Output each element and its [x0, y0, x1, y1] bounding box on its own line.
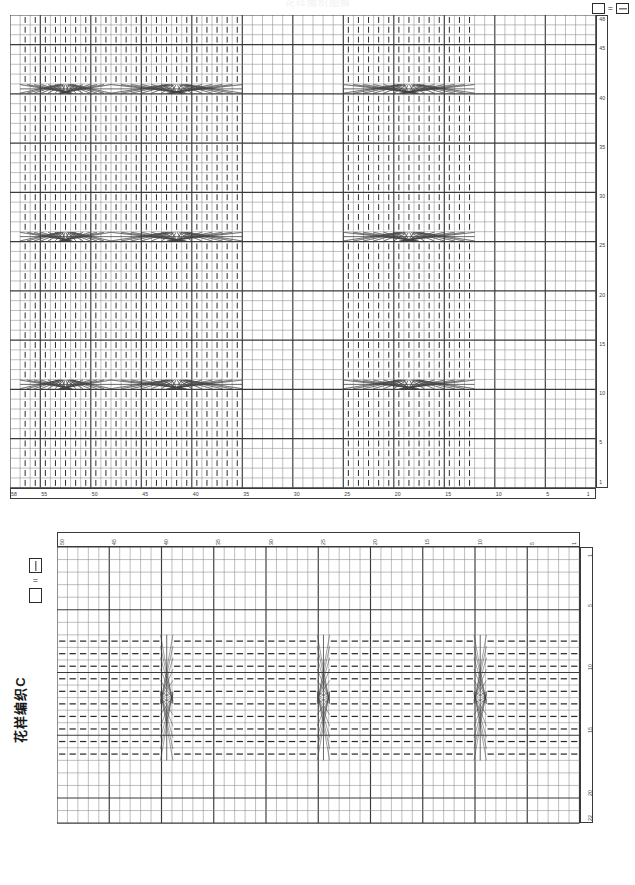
chart-b-caption: 花样编织C: [10, 665, 29, 755]
chart-b-row-tick: 1: [588, 554, 593, 557]
chart-b-right-label-strip: [580, 547, 593, 823]
cable-crossing: [343, 380, 474, 389]
chart-a-grid: [10, 15, 597, 489]
chart-b-row-tick: 10: [588, 664, 593, 670]
pattern-chart-a: [10, 15, 596, 488]
chart-b-col-tick: 30: [269, 539, 274, 545]
legend-equals-label-b: =: [33, 576, 38, 585]
chart-b-grid: [57, 547, 581, 824]
chart-b-col-tick: 40: [164, 539, 169, 545]
legend-empty-square-icon-b: [29, 588, 42, 603]
cable-crossing: [20, 380, 111, 389]
chart-a-right-label-strip: [596, 15, 608, 488]
cable-crossing: [20, 232, 111, 241]
chart-b-top-label-strip: [57, 532, 580, 547]
cable-crossing: [343, 232, 474, 241]
chart-b-row-tick: 22: [588, 815, 593, 821]
cable-crossing: [111, 380, 242, 389]
pattern-chart-page: 花样编织图解 = = 花样编织C 58555045403530252015105…: [0, 0, 635, 885]
cable-crossing: [111, 85, 242, 94]
chart-b-col-tick: 45: [112, 539, 117, 545]
legend-equals-label: =: [608, 4, 613, 13]
chart-b-col-tick: 25: [321, 539, 326, 545]
page-title: 花样编织图解: [0, 0, 635, 8]
chart-b-legend: =: [29, 558, 42, 603]
legend-empty-square-icon: [592, 3, 605, 14]
cable-crossing: [20, 85, 111, 94]
pattern-chart-b: [57, 547, 580, 823]
chart-b-row-tick: 20: [588, 790, 593, 796]
chart-b-col-tick: 20: [373, 539, 378, 545]
chart-a-legend: =: [592, 3, 629, 14]
chart-b-col-tick: 50: [60, 539, 65, 545]
cable-crossing: [343, 85, 474, 94]
chart-b-col-tick: 1: [572, 542, 577, 545]
chart-b-col-tick: 15: [425, 539, 430, 545]
chart-b-col-tick: 35: [216, 539, 221, 545]
chart-a-bottom-label-strip: [10, 488, 596, 499]
cable-crossing: [111, 232, 242, 241]
legend-knit-bar-square-icon: [29, 558, 42, 573]
chart-b-col-tick: 5: [530, 542, 535, 545]
legend-purl-square-icon: [616, 3, 629, 14]
chart-b-row-tick: 15: [588, 727, 593, 733]
chart-b-col-tick: 10: [478, 539, 483, 545]
